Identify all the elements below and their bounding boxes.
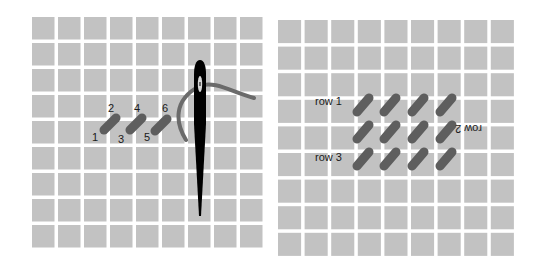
canvas-cell xyxy=(162,225,185,248)
canvas-cell xyxy=(411,47,434,70)
canvas-cell xyxy=(110,69,133,92)
canvas-cell xyxy=(384,180,407,203)
canvas-cell xyxy=(464,47,487,70)
canvas-cell xyxy=(214,199,237,222)
canvas-cell xyxy=(438,20,461,43)
canvas-cell xyxy=(491,20,514,43)
canvas-cell xyxy=(358,47,381,70)
canvas-cell xyxy=(331,20,354,43)
canvas-cell xyxy=(438,206,461,229)
canvas-cell xyxy=(491,180,514,203)
canvas-cell xyxy=(278,100,301,123)
canvas-cell xyxy=(438,180,461,203)
canvas-cell xyxy=(305,126,328,149)
canvas-cell xyxy=(110,147,133,170)
canvas-cell xyxy=(464,233,487,256)
canvas-cell xyxy=(384,206,407,229)
canvas-cell xyxy=(84,95,107,118)
canvas-cell xyxy=(58,173,81,196)
canvas-cell xyxy=(278,233,301,256)
canvas-cell xyxy=(491,206,514,229)
canvas-cell xyxy=(384,233,407,256)
canvas-cell xyxy=(32,199,55,222)
canvas-cell xyxy=(214,95,237,118)
canvas-cell xyxy=(438,73,461,96)
canvas-cell xyxy=(32,95,55,118)
canvas-cell xyxy=(240,43,263,66)
canvas-cell xyxy=(331,206,354,229)
canvas-cell xyxy=(240,17,263,40)
canvas-cell xyxy=(464,153,487,176)
canvas-cell xyxy=(84,199,107,222)
canvas-cell xyxy=(305,206,328,229)
canvas-cell xyxy=(278,180,301,203)
canvas-cell xyxy=(384,20,407,43)
canvas-cell xyxy=(110,43,133,66)
canvas-cell xyxy=(214,225,237,248)
canvas-cell xyxy=(162,69,185,92)
canvas-cell xyxy=(464,206,487,229)
canvas-cell xyxy=(32,147,55,170)
canvas-cell xyxy=(464,73,487,96)
canvas-cell xyxy=(240,199,263,222)
canvas-cell xyxy=(84,147,107,170)
canvas-cell xyxy=(110,173,133,196)
canvas-cell xyxy=(110,199,133,222)
canvas-cell xyxy=(331,126,354,149)
canvas-cell xyxy=(58,199,81,222)
canvas-cell xyxy=(162,173,185,196)
stitch-number-4: 4 xyxy=(134,102,140,114)
canvas-cell xyxy=(305,180,328,203)
canvas-cell xyxy=(58,69,81,92)
canvas-cell xyxy=(214,17,237,40)
canvas-cell xyxy=(331,47,354,70)
canvas-cell xyxy=(58,17,81,40)
canvas-cell xyxy=(358,233,381,256)
row-2-label-inverted: row 2 xyxy=(455,123,482,135)
canvas-cell xyxy=(464,180,487,203)
canvas-cell xyxy=(240,147,263,170)
canvas-cell xyxy=(411,233,434,256)
canvas-cell xyxy=(58,95,81,118)
stitch-number-5: 5 xyxy=(144,131,150,143)
canvas-cell xyxy=(411,206,434,229)
canvas-cell xyxy=(84,43,107,66)
canvas-cell xyxy=(162,43,185,66)
canvas-cell xyxy=(438,47,461,70)
row-1-label: row 1 xyxy=(315,95,342,107)
canvas-cell xyxy=(32,43,55,66)
canvas-cell xyxy=(358,73,381,96)
canvas-cell xyxy=(240,121,263,144)
canvas-cell xyxy=(278,126,301,149)
canvas-cell xyxy=(58,121,81,144)
canvas-cell xyxy=(491,126,514,149)
canvas-cell xyxy=(411,20,434,43)
right-canvas-grid xyxy=(278,20,514,256)
canvas-cell xyxy=(162,17,185,40)
canvas-cell xyxy=(305,47,328,70)
canvas-cell xyxy=(305,20,328,43)
canvas-cell xyxy=(136,199,159,222)
canvas-cell xyxy=(214,121,237,144)
stitch-number-3: 3 xyxy=(118,133,124,145)
canvas-cell xyxy=(58,147,81,170)
canvas-cell xyxy=(84,17,107,40)
stitch-number-1: 1 xyxy=(92,131,98,143)
canvas-cell xyxy=(188,17,211,40)
canvas-cell xyxy=(136,43,159,66)
canvas-cell xyxy=(491,233,514,256)
canvas-cell xyxy=(58,225,81,248)
canvas-cell xyxy=(136,173,159,196)
canvas-cell xyxy=(491,73,514,96)
canvas-cell xyxy=(278,73,301,96)
canvas-cell xyxy=(278,47,301,70)
canvas-cell xyxy=(491,47,514,70)
row-3-label: row 3 xyxy=(315,151,342,163)
canvas-cell xyxy=(162,147,185,170)
canvas-cell xyxy=(84,225,107,248)
canvas-cell xyxy=(384,47,407,70)
canvas-cell xyxy=(305,73,328,96)
canvas-cell xyxy=(464,100,487,123)
canvas-cell xyxy=(331,180,354,203)
canvas-cell xyxy=(438,233,461,256)
